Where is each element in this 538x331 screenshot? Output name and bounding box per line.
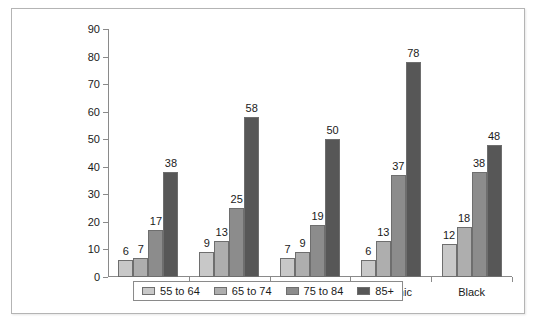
y-tick-mark bbox=[103, 222, 108, 223]
legend-label: 75 to 84 bbox=[304, 285, 344, 297]
y-tick-mark bbox=[103, 167, 108, 168]
bar-value-label: 25 bbox=[231, 193, 243, 205]
bar-65-to-74[interactable]: 9 bbox=[295, 29, 310, 277]
legend-swatch-icon bbox=[357, 287, 370, 295]
bar-value-label: 38 bbox=[473, 157, 485, 169]
bar-rect[interactable] bbox=[148, 230, 163, 277]
bar-rect[interactable] bbox=[487, 145, 502, 277]
y-tick-mark bbox=[103, 194, 108, 195]
y-axis-label: 50 bbox=[88, 131, 100, 147]
legend-item[interactable]: 55 to 64 bbox=[142, 285, 200, 297]
y-axis-label: 10 bbox=[88, 241, 100, 257]
bar-rect[interactable] bbox=[133, 258, 148, 277]
legend-label: 65 to 74 bbox=[232, 285, 272, 297]
bar-value-label: 38 bbox=[165, 157, 177, 169]
bar-85+[interactable]: 78 bbox=[406, 29, 421, 277]
y-tick-mark bbox=[103, 249, 108, 250]
bar-75-to-84[interactable]: 25 bbox=[229, 29, 244, 277]
bar-value-label: 7 bbox=[284, 243, 290, 255]
y-tick-mark bbox=[103, 112, 108, 113]
y-axis-label: 30 bbox=[88, 186, 100, 202]
bar-rect[interactable] bbox=[229, 208, 244, 277]
legend-item[interactable]: 85+ bbox=[357, 285, 394, 297]
bar-rect[interactable] bbox=[361, 260, 376, 277]
bar-rect[interactable] bbox=[199, 252, 214, 277]
bar-rect[interactable] bbox=[406, 62, 421, 277]
legend-swatch-icon bbox=[286, 287, 299, 295]
y-tick-mark bbox=[103, 57, 108, 58]
y-axis-label: 40 bbox=[88, 159, 100, 175]
bar-rect[interactable] bbox=[295, 252, 310, 277]
bar-rect[interactable] bbox=[214, 241, 229, 277]
bar-rect[interactable] bbox=[442, 244, 457, 277]
bar-rect[interactable] bbox=[280, 258, 295, 277]
bar-rect[interactable] bbox=[457, 227, 472, 277]
bar-value-label: 9 bbox=[204, 237, 210, 249]
y-axis-label: 90 bbox=[88, 21, 100, 37]
bar-value-label: 48 bbox=[488, 130, 500, 142]
y-axis-label: 0 bbox=[94, 269, 100, 285]
bar-75-to-84[interactable]: 38 bbox=[472, 29, 487, 277]
legend-swatch-icon bbox=[214, 287, 227, 295]
y-axis-label: 60 bbox=[88, 104, 100, 120]
bar-group: 6133778Hispanic bbox=[361, 29, 421, 277]
bar-value-label: 78 bbox=[407, 47, 419, 59]
bar-55-to-64[interactable]: 6 bbox=[361, 29, 376, 277]
bar-value-label: 13 bbox=[377, 226, 389, 238]
bar-value-label: 17 bbox=[150, 215, 162, 227]
bar-group: 791950White bbox=[280, 29, 340, 277]
bar-65-to-74[interactable]: 7 bbox=[133, 29, 148, 277]
y-axis-label: 20 bbox=[88, 214, 100, 230]
bar-value-label: 50 bbox=[326, 124, 338, 136]
legend-swatch-icon bbox=[142, 287, 155, 295]
bar-value-label: 37 bbox=[392, 160, 404, 172]
bar-rect[interactable] bbox=[310, 225, 325, 277]
bar-75-to-84[interactable]: 37 bbox=[391, 29, 406, 277]
bar-rect[interactable] bbox=[118, 260, 133, 277]
bar-rect[interactable] bbox=[376, 241, 391, 277]
bar-55-to-64[interactable]: 9 bbox=[199, 29, 214, 277]
bar-group: 671738Men bbox=[118, 29, 178, 277]
bar-65-to-74[interactable]: 18 bbox=[457, 29, 472, 277]
bar-value-label: 6 bbox=[123, 245, 129, 257]
bar-value-label: 12 bbox=[443, 229, 455, 241]
bar-value-label: 58 bbox=[246, 102, 258, 114]
bar-85+[interactable]: 58 bbox=[244, 29, 259, 277]
bar-rect[interactable] bbox=[163, 172, 178, 277]
bar-value-label: 18 bbox=[458, 212, 470, 224]
y-tick-mark bbox=[103, 84, 108, 85]
chart-frame: 0102030405060708090 671738Men9132558Wome… bbox=[11, 8, 525, 314]
legend-item[interactable]: 75 to 84 bbox=[286, 285, 344, 297]
bar-55-to-64[interactable]: 12 bbox=[442, 29, 457, 277]
bar-rect[interactable] bbox=[472, 172, 487, 277]
x-axis-category-label: Black bbox=[458, 286, 485, 298]
bar-85+[interactable]: 48 bbox=[487, 29, 502, 277]
bar-75-to-84[interactable]: 19 bbox=[310, 29, 325, 277]
bar-55-to-64[interactable]: 7 bbox=[280, 29, 295, 277]
bar-value-label: 19 bbox=[311, 210, 323, 222]
legend-item[interactable]: 65 to 74 bbox=[214, 285, 272, 297]
bar-value-label: 6 bbox=[365, 245, 371, 257]
bar-group: 12183848Black bbox=[442, 29, 502, 277]
y-axis-label: 70 bbox=[88, 76, 100, 92]
bar-65-to-74[interactable]: 13 bbox=[214, 29, 229, 277]
bar-value-label: 9 bbox=[299, 237, 305, 249]
bar-rect[interactable] bbox=[325, 139, 340, 277]
x-axis-tick bbox=[431, 277, 432, 282]
bar-value-label: 7 bbox=[138, 243, 144, 255]
bar-value-label: 13 bbox=[216, 226, 228, 238]
y-axis-label: 80 bbox=[88, 49, 100, 65]
y-tick-mark bbox=[103, 139, 108, 140]
bar-55-to-64[interactable]: 6 bbox=[118, 29, 133, 277]
bar-85+[interactable]: 50 bbox=[325, 29, 340, 277]
chart-legend: 55 to 6465 to 7475 to 8485+ bbox=[133, 281, 403, 301]
y-tick-mark bbox=[103, 29, 108, 30]
bar-75-to-84[interactable]: 17 bbox=[148, 29, 163, 277]
y-tick-mark bbox=[103, 277, 108, 278]
bar-85+[interactable]: 38 bbox=[163, 29, 178, 277]
bar-rect[interactable] bbox=[244, 117, 259, 277]
plot-area: 0102030405060708090 671738Men9132558Wome… bbox=[108, 29, 512, 277]
legend-label: 85+ bbox=[375, 285, 394, 297]
bar-65-to-74[interactable]: 13 bbox=[376, 29, 391, 277]
bar-rect[interactable] bbox=[391, 175, 406, 277]
